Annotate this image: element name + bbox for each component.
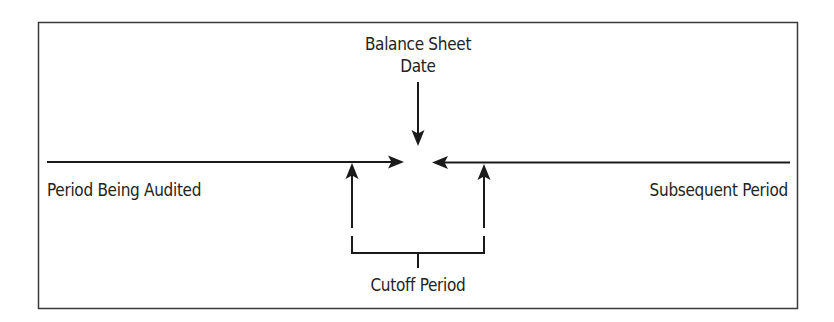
cutoff-end-arrow <box>478 164 491 228</box>
cutoff-start-arrow <box>346 163 359 228</box>
cutoff-period-bracket <box>352 236 484 268</box>
balance-sheet-date-line2: Date <box>318 56 518 76</box>
period-being-audited-label: Period Being Audited <box>47 180 201 200</box>
subsequent-period-arrow <box>432 156 790 169</box>
balance-sheet-date-arrow <box>412 82 425 146</box>
cutoff-period-label: Cutoff Period <box>318 275 518 295</box>
balance-sheet-date-label: Balance Sheet Date <box>318 34 518 76</box>
period-being-audited-arrow <box>47 156 404 169</box>
subsequent-period-label: Subsequent Period <box>650 180 788 200</box>
balance-sheet-date-line1: Balance Sheet <box>318 34 518 54</box>
